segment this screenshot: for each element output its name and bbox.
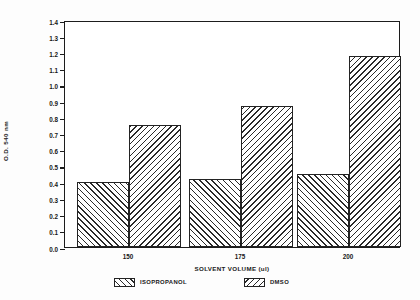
legend-label-dmso: DMSO bbox=[270, 279, 289, 285]
y-tick-label: 0.7 bbox=[49, 131, 58, 140]
bar-dmso-150 bbox=[129, 125, 181, 247]
bar-isopropanol-150 bbox=[77, 182, 129, 247]
y-tick-label: 1.4 bbox=[49, 18, 58, 27]
x-tick-mark bbox=[348, 243, 349, 248]
y-tick-label: 0.4 bbox=[49, 180, 58, 189]
y-tick: 0.3 bbox=[39, 196, 65, 205]
x-axis-title: SOLVENT VOLUME (ul) bbox=[64, 265, 400, 272]
bar-chart-figure: O.D. 540 nm 1.41.31.21.11.00.90.80.70.60… bbox=[0, 0, 420, 300]
y-tick: 0.0 bbox=[39, 245, 65, 254]
legend-entry-isopropanol: ISOPROPANOL bbox=[114, 278, 187, 287]
y-tick-label: 1.2 bbox=[49, 50, 58, 59]
y-tick-label: 0.8 bbox=[49, 115, 58, 124]
y-tick: 1.4 bbox=[39, 18, 65, 27]
bar-dmso-175 bbox=[241, 106, 293, 247]
y-tick-label: 1.3 bbox=[49, 34, 58, 43]
y-tick-label: 0.2 bbox=[49, 212, 58, 221]
legend-entry-dmso: DMSO bbox=[244, 278, 289, 287]
bar-dmso-200 bbox=[349, 56, 401, 247]
y-tick: 0.9 bbox=[39, 99, 65, 108]
bar-isopropanol-200 bbox=[297, 174, 349, 247]
y-tick-label: 0.1 bbox=[49, 228, 58, 237]
bar-series-container bbox=[65, 22, 399, 247]
y-tick-label: 1.0 bbox=[49, 82, 58, 91]
y-tick: 0.5 bbox=[39, 163, 65, 172]
legend-swatch-dmso bbox=[244, 278, 265, 287]
y-tick: 0.1 bbox=[39, 228, 65, 237]
x-tick-label: 175 bbox=[220, 253, 260, 260]
y-tick-label: 0.3 bbox=[49, 196, 58, 205]
x-tick-label: 150 bbox=[108, 253, 148, 260]
y-axis-title: O.D. 540 nm bbox=[2, 96, 9, 186]
y-tick: 1.2 bbox=[39, 50, 65, 59]
y-tick: 0.7 bbox=[39, 131, 65, 140]
y-tick: 1.0 bbox=[39, 82, 65, 91]
legend-label-isopropanol: ISOPROPANOL bbox=[140, 279, 187, 285]
x-tick-mark bbox=[240, 243, 241, 248]
legend-swatch-isopropanol bbox=[114, 278, 135, 287]
y-tick: 1.3 bbox=[39, 34, 65, 43]
y-tick-label: 0.9 bbox=[49, 99, 58, 108]
plot-area: 1.41.31.21.11.00.90.80.70.60.50.40.30.20… bbox=[64, 21, 400, 248]
bar-isopropanol-175 bbox=[189, 179, 241, 247]
x-tick-mark bbox=[128, 243, 129, 248]
y-tick: 0.4 bbox=[39, 180, 65, 189]
y-tick: 0.8 bbox=[39, 115, 65, 124]
y-tick-label: 0.5 bbox=[49, 163, 58, 172]
y-tick: 1.1 bbox=[39, 66, 65, 75]
y-tick-label: 1.1 bbox=[49, 66, 58, 75]
y-tick: 0.6 bbox=[39, 147, 65, 156]
y-tick-label: 0.0 bbox=[49, 245, 58, 254]
x-tick-label: 200 bbox=[328, 253, 368, 260]
chart-legend: ISOPROPANOLDMSO bbox=[64, 278, 400, 294]
y-tick: 0.2 bbox=[39, 212, 65, 221]
y-tick-label: 0.6 bbox=[49, 147, 58, 156]
y-tick-mark bbox=[60, 249, 65, 250]
